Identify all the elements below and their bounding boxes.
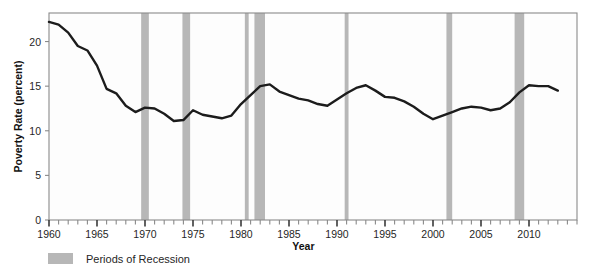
x-axis-tick-label: 1960 [37,228,61,240]
recession-band [515,13,525,220]
x-axis-tick-label: 1995 [373,228,397,240]
recession-band [345,13,349,220]
recession-band [141,13,149,220]
y-axis-tick-label: 20 [29,36,41,48]
x-axis-tick-label: 2000 [421,228,445,240]
x-axis-tick-label: 2005 [469,228,493,240]
y-axis-tick-label: 10 [29,125,41,137]
x-axis-tick-label: 1990 [325,228,349,240]
y-axis-tick-label: 0 [35,214,41,226]
y-axis-tick-label: 15 [29,80,41,92]
y-axis-tick-label: 5 [35,169,41,181]
legend-label-recession: Periods of Recession [86,253,190,265]
x-axis-tick-label: 2010 [517,228,541,240]
x-axis-tick-label: 1975 [181,228,205,240]
chart-canvas: 0510152019601965197019751980198519901995… [0,0,593,276]
recession-band [446,13,452,220]
x-axis-tick-label: 1985 [277,228,301,240]
plot-background [49,13,577,220]
recession-band [254,13,265,220]
x-axis-title: Year [292,240,314,252]
legend-swatch-recession [48,253,73,264]
poverty-rate-chart-figure: 0510152019601965197019751980198519901995… [0,0,593,276]
x-axis-tick-label: 1980 [229,228,253,240]
y-axis-title: Poverty Rate (percent) [12,60,24,172]
x-axis-tick-label: 1965 [85,228,109,240]
x-axis-tick-label: 1970 [133,228,157,240]
recession-band [245,13,249,220]
